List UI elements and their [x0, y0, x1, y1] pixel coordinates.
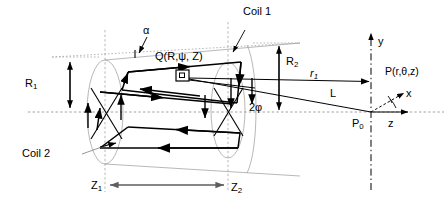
coil-1-leader	[233, 30, 245, 52]
label-axis-y: y	[378, 36, 384, 47]
figure-canvas: Coil 1 Coil 2 R1 R2 Z1 Z2 α 2φ Q(R,ψ, Z)…	[0, 0, 444, 209]
cone-construction-lines	[87, 43, 300, 176]
label-vector-L: L	[330, 88, 336, 99]
label-2phi: 2φ	[249, 102, 262, 113]
label-origin-P0: P0	[352, 118, 364, 131]
coordinate-axes	[371, 33, 408, 190]
vector-Q-to-P	[189, 80, 255, 88]
label-coil-2: Coil 2	[22, 148, 50, 159]
label-source-point-Q: Q(R,ψ, Z)	[155, 51, 203, 62]
label-coil-1: Coil 1	[243, 6, 271, 17]
diagram-vector-graphics	[0, 0, 444, 209]
label-Z2: Z2	[231, 182, 242, 195]
alpha-angle-leader	[135, 37, 147, 58]
station-lines	[105, 22, 228, 192]
label-axis-z: z	[388, 118, 394, 129]
label-Z1: Z1	[91, 180, 102, 193]
vector-L	[189, 79, 371, 112]
label-R2: R2	[286, 56, 298, 69]
axis-x-line	[371, 93, 404, 112]
label-axis-x: x	[406, 88, 412, 99]
label-vector-r1: r1	[310, 68, 318, 81]
coil-1-winding	[122, 62, 241, 103]
label-field-point-P: P(r,θ,z)	[385, 66, 419, 77]
label-R1: R1	[25, 78, 37, 91]
label-alpha: α	[143, 25, 149, 36]
source-point-marker	[176, 70, 189, 81]
theta-arc-outer	[390, 99, 396, 108]
